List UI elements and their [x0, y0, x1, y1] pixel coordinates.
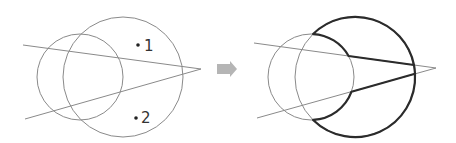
point-1-label: 1 — [144, 37, 154, 55]
highlighted-region-outline — [313, 17, 415, 137]
arrow-right-icon — [217, 61, 237, 77]
right-arc-between-lines — [414, 65, 415, 74]
diagram-canvas: 1 2 — [0, 0, 456, 143]
right-panel — [254, 17, 436, 137]
left-panel: 1 2 — [23, 17, 201, 137]
point-1-dot — [136, 43, 140, 47]
point-2-dot — [134, 116, 138, 120]
small-circle — [37, 34, 123, 120]
point-2-label: 2 — [141, 109, 151, 127]
lower-line — [25, 69, 201, 119]
